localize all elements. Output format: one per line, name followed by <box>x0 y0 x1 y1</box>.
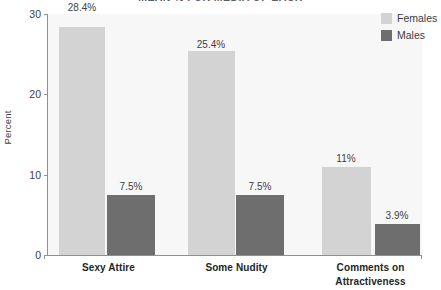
legend-label-males: Males <box>397 30 425 41</box>
x-axis-category-labels: Sexy Attire Some Nudity Comments on Attr… <box>48 261 422 290</box>
legend-item-females[interactable]: Females <box>381 10 441 27</box>
y-tick-label-0: 0 <box>1 250 41 260</box>
category-label-comments-on-attractiveness: Comments on Attractiveness <box>318 261 423 288</box>
y-tick-label-30: 30 <box>1 9 41 19</box>
bar-females-comments-on-attractiveness[interactable] <box>322 167 371 255</box>
category-label-sexy-attire-line-1: Sexy Attire <box>56 261 161 275</box>
legend-swatch-males-icon <box>381 30 392 41</box>
bar-chart: MEAN % FOR MEDIA OF EACH 30 20 10 0 Perc… <box>0 0 441 290</box>
bars-layer: 28.4% 7.5% 25.4% 7.5% 11% 3.9% <box>48 14 422 255</box>
category-label-some-nudity: Some Nudity <box>184 261 289 275</box>
legend-swatch-females-icon <box>381 13 392 24</box>
legend-label-females: Females <box>397 13 437 24</box>
bar-value-females-comments-on-attractiveness: 11% <box>320 153 372 164</box>
y-tick-0 <box>44 255 48 256</box>
bar-value-males-comments-on-attractiveness: 3.9% <box>371 210 423 221</box>
bar-value-males-sexy-attire: 7.5% <box>105 181 157 192</box>
y-axis-title: Percent <box>2 98 13 158</box>
legend-item-males[interactable]: Males <box>381 27 441 44</box>
x-axis-line <box>44 255 422 256</box>
category-label-sexy-attire: Sexy Attire <box>56 261 161 275</box>
bar-value-males-some-nudity: 7.5% <box>234 181 286 192</box>
bar-value-females-sexy-attire: 28.4% <box>56 2 108 13</box>
x-axis-right-tick <box>421 255 422 259</box>
bar-females-sexy-attire[interactable] <box>59 27 105 255</box>
chart-legend: Females Males <box>381 10 441 44</box>
y-tick-label-10: 10 <box>1 170 41 180</box>
category-label-comments-on-attractiveness-line-2: Attractiveness <box>318 275 423 289</box>
category-label-comments-on-attractiveness-line-1: Comments on <box>318 261 423 275</box>
category-label-some-nudity-line-1: Some Nudity <box>184 261 289 275</box>
bar-males-some-nudity[interactable] <box>236 195 284 255</box>
bar-males-sexy-attire[interactable] <box>107 195 155 255</box>
bar-males-comments-on-attractiveness[interactable] <box>375 224 420 255</box>
bar-value-females-some-nudity: 25.4% <box>185 39 237 50</box>
bar-females-some-nudity[interactable] <box>188 51 235 255</box>
